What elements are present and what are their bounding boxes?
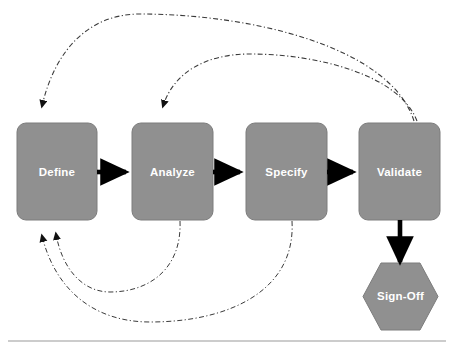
feedback-arrow-specify-to-define [42,221,292,322]
feedback-arrow-validate-to-define [42,14,414,121]
node-define-label: Define [39,166,75,178]
feedback-arrow-validate-to-analyze [163,54,417,121]
node-sign-off[interactable]: Sign-Off [363,263,438,330]
node-validate[interactable]: Validate [359,123,440,220]
node-sign-off-label: Sign-Off [377,290,424,302]
process-flow-diagram: Define Analyze Specify Validate Sign-Off [0,0,454,351]
node-analyze[interactable]: Analyze [132,123,213,220]
node-specify-label: Specify [265,166,308,178]
node-validate-label: Validate [377,166,422,178]
feedback-arrow-analyze-to-define [56,221,180,292]
node-analyze-label: Analyze [150,166,195,178]
node-specify[interactable]: Specify [246,123,327,220]
node-define[interactable]: Define [17,123,97,220]
flow-diagram-canvas: Define Analyze Specify Validate Sign-Off [0,0,454,351]
